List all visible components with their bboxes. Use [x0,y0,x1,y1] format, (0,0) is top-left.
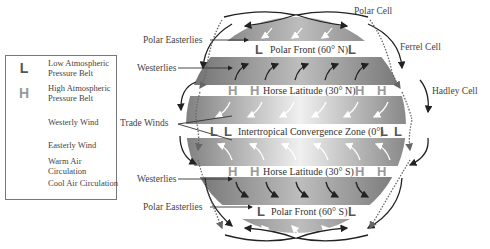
legend-item-label: Easterly Wind [48,140,118,150]
band-label-horse-latitude-north: Horse Latitude (30° N) [263,85,356,97]
legend-item-low-pressure: L Low Atmospheric Pressure Belt [6,58,116,78]
label-polar-cell: Polar Cell [354,6,392,17]
low-pressure-symbol: L [394,125,402,138]
label-hadley-cell: Hadley Cell [432,86,478,97]
legend-item-high-pressure: H High Atmospheric Pressure Belt [6,83,116,103]
band-polar-south [180,219,420,245]
band-midlat-north [180,57,420,85]
band-label-polar-front-south: Polar Front (60° S) [271,206,348,218]
high-pressure-symbol: H [250,84,259,97]
legend-item-label: Low Atmospheric Pressure Belt [48,58,118,78]
legend-item-easterly-wind: Easterly Wind [6,136,116,156]
high-pressure-symbol: H [250,165,259,178]
low-pressure-symbol: L [257,205,265,218]
legend-item-warm-air: Warm Air Circulation [6,156,116,176]
band-label-horse-latitude-south: Horse Latitude (30° S) [263,166,354,178]
high-pressure-symbol: H [377,84,386,97]
high-pressure-symbol: H [228,84,237,97]
legend-item-label: Warm Air Circulation [48,156,118,176]
high-pressure-symbol: H [377,165,386,178]
legend: L Low Atmospheric Pressure Belt H High A… [5,55,117,200]
label-westerlies-north: Westerlies [137,63,176,74]
high-pressure-symbol: H [228,165,237,178]
low-pressure-symbol: L [210,125,218,138]
label-ferrel-cell: Ferrel Cell [400,42,441,53]
low-pressure-icon: L [12,58,36,78]
band-label-itcz: Intertropical Convergence Zone (0°) [238,126,384,138]
low-pressure-symbol: L [348,205,356,218]
high-pressure-symbol: H [355,165,364,178]
band-label-polar-front-north: Polar Front (60° N) [270,44,348,56]
label-trade-winds: Trade Winds [120,118,168,129]
label-polar-easterlies-north: Polar Easterlies [143,35,202,46]
legend-item-cool-air: Cool Air Circulation [6,178,116,198]
high-pressure-icon: H [12,83,36,103]
legend-item-label: High Atmospheric Pressure Belt [48,83,118,103]
label-polar-easterlies-south: Polar Easterlies [143,202,202,213]
low-pressure-symbol: L [348,43,356,56]
high-pressure-symbol: H [355,84,364,97]
band-tropics-south [180,138,420,166]
legend-item-westerly-wind: Westerly Wind [6,113,116,133]
legend-item-label: Westerly Wind [48,117,118,127]
label-westerlies-south: Westerlies [137,174,176,185]
low-pressure-symbol: L [255,43,263,56]
legend-item-label: Cool Air Circulation [48,178,118,188]
low-pressure-symbol: L [224,125,232,138]
low-pressure-symbol: L [380,125,388,138]
